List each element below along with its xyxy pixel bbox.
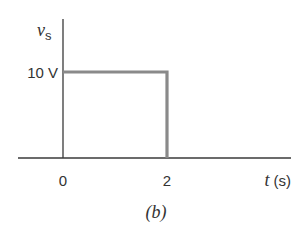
pulse-chart: vs 10 V 0 2 t(s) (b) — [0, 0, 302, 233]
y-axis-label: vs — [37, 20, 52, 43]
figure-caption: (b) — [146, 202, 167, 223]
pulse-signal — [63, 72, 167, 158]
y-tick-10v: 10 V — [27, 64, 58, 81]
x-var: t — [264, 170, 270, 190]
y-sub: s — [45, 28, 52, 43]
y-var: v — [37, 20, 45, 40]
x-tick-0: 0 — [59, 172, 67, 189]
x-tick-2: 2 — [163, 172, 171, 189]
x-unit: (s) — [274, 172, 292, 189]
x-axis-label: t(s) — [264, 170, 291, 190]
